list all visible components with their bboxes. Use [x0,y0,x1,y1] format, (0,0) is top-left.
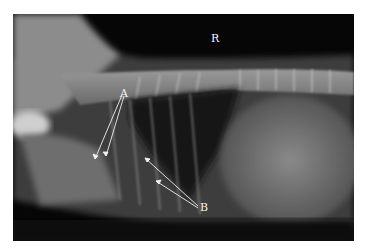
annotation-label-b: B [200,202,208,213]
radiograph-graphic [13,14,354,241]
radiograph-image [13,14,354,241]
orientation-marker: R [211,33,219,44]
annotation-label-a: A [120,88,128,99]
